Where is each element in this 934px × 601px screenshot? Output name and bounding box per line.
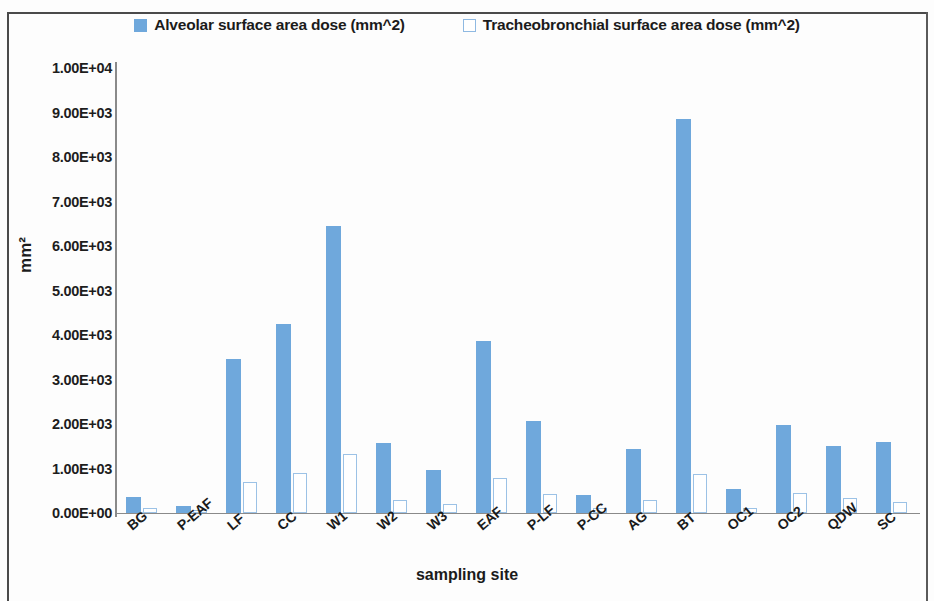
x-tick-label: P-LF [524,502,558,534]
x-axis-title: sampling site [0,566,934,584]
chart-container: Alveolar surface area dose (mm^2) Trache… [0,0,934,601]
x-tick-label: BG [124,508,150,534]
x-tick-label: OC1 [724,503,756,533]
x-tick-label: W1 [324,508,350,534]
x-tick-label: QDW [824,499,860,533]
x-tick-label: OC2 [774,503,806,533]
x-tick-label: W2 [374,508,400,534]
x-tick-label: LF [224,510,247,533]
x-tick-label: EAF [474,503,505,533]
x-axis-tick-labels: BGP-EAFLFCCW1W2W3EAFP-LFP-CCAGBTOC1OC2QD… [0,0,934,601]
x-tick-label: SC [874,509,899,534]
x-tick-label: AG [624,508,650,534]
x-tick-label: P-CC [574,500,610,534]
x-tick-label: W3 [424,508,450,534]
x-tick-label: BT [674,509,698,533]
x-tick-label: CC [274,508,299,533]
x-tick-label: P-EAF [174,495,216,534]
